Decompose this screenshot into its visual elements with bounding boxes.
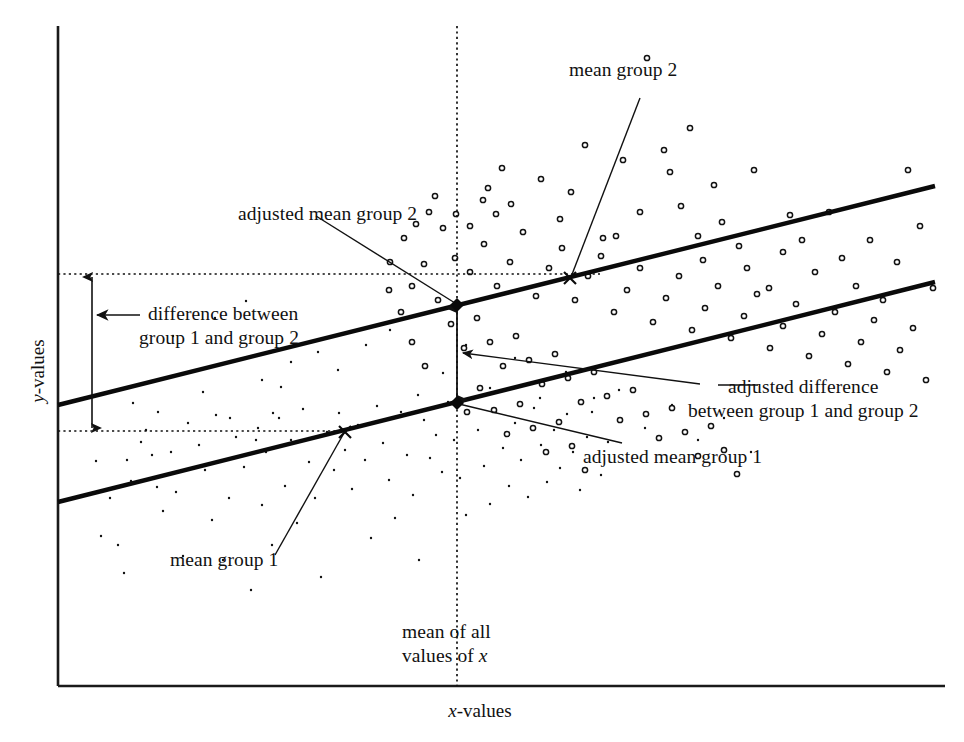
data-point <box>211 519 213 521</box>
data-point <box>453 439 455 441</box>
data-point <box>598 253 603 258</box>
data-point <box>502 447 504 449</box>
data-point <box>711 182 716 187</box>
data-point <box>435 434 437 436</box>
data-point <box>280 386 282 388</box>
data-point <box>582 142 587 147</box>
data-point <box>538 176 543 181</box>
data-point <box>333 469 335 471</box>
data-point <box>308 461 310 463</box>
data-point <box>736 243 741 248</box>
data-point <box>620 157 625 162</box>
data-point <box>95 460 97 462</box>
data-point <box>500 363 505 368</box>
data-point <box>317 351 319 353</box>
data-point <box>459 477 461 479</box>
data-point <box>728 335 733 340</box>
mean-of-all-x-italic-x: x <box>479 645 488 666</box>
data-point <box>151 454 153 456</box>
adjusted-difference-arrow <box>457 308 700 400</box>
data-point <box>364 459 366 461</box>
data-point <box>695 233 700 238</box>
data-point <box>481 241 486 246</box>
data-point <box>157 411 159 413</box>
data-point <box>734 471 739 476</box>
data-point <box>370 537 372 539</box>
data-point <box>644 427 646 429</box>
data-point <box>637 209 642 214</box>
data-point <box>406 454 408 456</box>
data-point <box>435 297 440 302</box>
data-point <box>461 345 466 350</box>
data-point <box>418 559 420 561</box>
data-point <box>578 399 583 404</box>
data-point <box>533 293 538 298</box>
data-point <box>780 323 785 328</box>
data-point <box>708 423 713 428</box>
annotation-adjusted-mean-group-1: adjusted mean group 1 <box>583 445 762 469</box>
data-point <box>637 265 642 270</box>
data-point <box>235 436 237 438</box>
data-point <box>376 405 378 407</box>
data-point <box>198 444 200 446</box>
data-point <box>417 394 419 396</box>
data-point <box>477 385 482 390</box>
data-point <box>700 257 705 262</box>
data-point <box>702 305 707 310</box>
data-point <box>812 269 817 274</box>
data-point <box>845 361 850 366</box>
data-point <box>271 544 273 546</box>
data-point <box>187 422 189 424</box>
leader-adjusted-mean-group-1 <box>459 404 622 443</box>
data-point <box>426 209 431 214</box>
annotation-adjusted-difference-line-1: adjusted difference <box>728 375 878 399</box>
data-point <box>917 223 922 228</box>
data-point <box>314 497 316 499</box>
data-point <box>489 387 491 389</box>
data-point <box>409 283 414 288</box>
data-point <box>871 317 876 322</box>
data-point <box>255 439 257 441</box>
data-point <box>682 429 687 434</box>
annotation-mean-of-all-x-line-1: mean of all <box>402 620 491 644</box>
data-point <box>422 363 427 368</box>
data-point <box>853 283 858 288</box>
data-point <box>678 203 683 208</box>
x-axis-label: x-values <box>390 700 570 722</box>
data-point <box>517 401 522 406</box>
data-point <box>389 329 391 331</box>
data-point <box>586 436 588 438</box>
data-point <box>202 391 204 393</box>
data-point <box>533 407 535 409</box>
data-point <box>643 411 648 416</box>
data-point <box>689 327 694 332</box>
annotation-adjusted-difference-line-2: between group 1 and group 2 <box>688 399 919 423</box>
data-point <box>676 273 681 278</box>
data-point <box>467 223 472 228</box>
data-point <box>884 369 889 374</box>
data-point <box>284 485 286 487</box>
data-point <box>546 481 548 483</box>
data-point <box>423 419 425 421</box>
data-point <box>557 216 562 221</box>
leader-mean-group-2 <box>571 98 640 277</box>
data-point <box>540 444 542 446</box>
data-point <box>910 325 915 330</box>
data-point <box>754 291 759 296</box>
data-point <box>520 459 522 461</box>
data-point <box>572 297 577 302</box>
figure-canvas: mean group 2 adjusted mean group 2 diffe… <box>0 0 964 742</box>
data-point <box>613 233 618 238</box>
data-point <box>880 297 885 302</box>
annotation-mean-group-2: mean group 2 <box>569 58 677 82</box>
data-point <box>388 479 390 481</box>
data-point <box>630 387 635 392</box>
data-point <box>228 497 230 499</box>
data-point <box>559 467 561 469</box>
data-point <box>398 309 403 314</box>
data-point <box>656 435 661 440</box>
adjusted-mean-group-1-marker <box>450 396 464 410</box>
data-point <box>132 402 134 404</box>
data-point <box>600 235 605 240</box>
data-point <box>923 377 928 382</box>
